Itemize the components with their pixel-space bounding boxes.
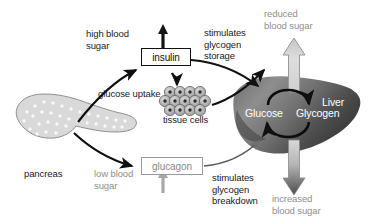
label-pancreas: pancreas	[24, 168, 62, 180]
label-glucose-uptake: glucose uptake	[98, 88, 161, 100]
high-blood-sugar-arrow	[158, 24, 168, 48]
insulin-to-liver-arrow	[191, 60, 258, 86]
diagram-canvas: high blood sugar reduced blood sugar sti…	[0, 0, 384, 224]
insulin-label: insulin	[152, 52, 180, 63]
insulin-to-tissue-cells-arrow	[172, 73, 177, 85]
insulin-box[interactable]: insulin	[141, 48, 191, 66]
glucagon-label: glucagon	[152, 161, 192, 172]
pancreas-to-glucagon-arrow	[74, 133, 132, 166]
tissue-cells-cluster	[159, 86, 210, 115]
label-glycogen: Glycogen	[296, 107, 340, 119]
label-stimulates-glycogen-breakdown: stimulates glycogen breakdown	[212, 172, 278, 207]
label-glucose: Glucose	[245, 107, 283, 119]
pancreas-organ	[16, 94, 136, 138]
glucagon-box[interactable]: glucagon	[141, 157, 203, 175]
label-stimulates-glycogen-storage: stimulates glycogen storage	[204, 27, 264, 62]
label-reduced-blood-sugar: reduced blood sugar	[264, 8, 344, 31]
label-tissue-cells: tissue cells	[163, 114, 208, 126]
label-increased-blood-sugar: increased blood sugar	[272, 193, 358, 216]
